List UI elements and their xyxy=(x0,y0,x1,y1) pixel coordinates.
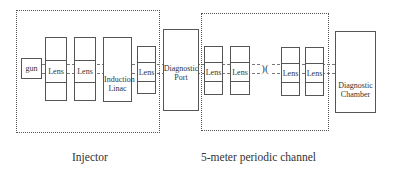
lens-4-label: Lens xyxy=(206,68,222,77)
break-symbol-glyph: )( xyxy=(261,62,268,74)
lens-7: Lens xyxy=(305,47,324,96)
induction-linac-box: Induction Linac xyxy=(103,37,132,102)
diagnostic-port-label-line1: Diagnostic xyxy=(164,64,199,73)
lens-2-label: Lens xyxy=(77,67,93,76)
gun-label: gun xyxy=(26,64,38,73)
lens-3-label: Lens xyxy=(139,68,155,77)
channel-caption: 5-meter periodic channel xyxy=(201,151,316,163)
lens-6: Lens xyxy=(281,47,300,96)
diagnostic-chamber-label-line2: Chamber xyxy=(341,90,370,99)
lens-3: Lens xyxy=(137,46,156,94)
break-symbol: )( xyxy=(260,63,270,77)
lens-7-label: Lens xyxy=(307,69,323,78)
diagnostic-port-box: Diagnostic Port xyxy=(163,29,199,111)
lens-2: Lens xyxy=(74,37,96,101)
lens-4: Lens xyxy=(204,46,223,95)
lens-6-label: Lens xyxy=(283,69,299,78)
lens-1: Lens xyxy=(45,37,67,101)
diagnostic-port-label-line2: Port xyxy=(174,73,187,82)
gun-box: gun xyxy=(21,58,42,79)
induction-linac-label-line1: Induction xyxy=(104,75,131,84)
diagnostic-chamber-label-line1: Diagnostic xyxy=(338,81,373,90)
induction-linac-label-line2: Linac xyxy=(104,84,131,93)
diagnostic-chamber-box: Diagnostic Chamber xyxy=(335,31,376,113)
lens-5: Lens xyxy=(230,46,250,95)
lens-5-label: Lens xyxy=(232,68,248,77)
injector-caption: Injector xyxy=(72,151,108,163)
lens-1-label: Lens xyxy=(48,67,64,76)
